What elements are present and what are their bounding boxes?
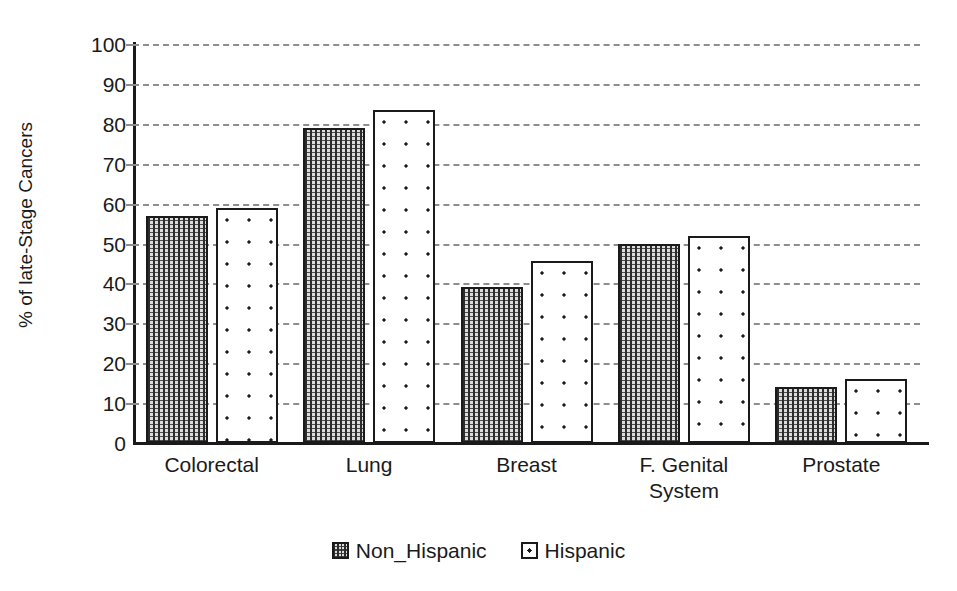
x-tick-label: Breast <box>448 452 605 478</box>
plot-area <box>133 44 920 443</box>
sparse-dots-swatch <box>521 542 538 559</box>
x-axis-category-labels: ColorectalLungBreastF. Genital SystemPro… <box>133 452 920 514</box>
y-tick-label: 30 <box>52 313 126 334</box>
y-tick-label: 60 <box>52 193 126 214</box>
chart-figure: % of late-Stage Cancers 1009080706050403… <box>0 0 957 591</box>
y-axis-title: % of late-Stage Cancers <box>15 122 37 328</box>
bar[interactable] <box>303 128 365 443</box>
y-tick-label: 0 <box>52 433 126 454</box>
bar[interactable] <box>531 261 593 443</box>
y-tick-label: 50 <box>52 233 126 254</box>
legend-item[interactable]: Hispanic <box>521 540 626 561</box>
bar[interactable] <box>775 387 837 443</box>
y-tick-label: 80 <box>52 113 126 134</box>
y-axis-tick-labels: 1009080706050403020100 <box>50 0 126 591</box>
bar[interactable] <box>146 216 208 443</box>
x-tick-label: Lung <box>290 452 447 478</box>
y-tick-label: 90 <box>52 73 126 94</box>
bar[interactable] <box>845 379 907 443</box>
bar[interactable] <box>618 244 680 444</box>
x-tick-label: Prostate <box>763 452 920 478</box>
legend-label: Non_Hispanic <box>356 540 487 561</box>
legend-item[interactable]: Non_Hispanic <box>332 540 487 561</box>
dense-dotted-swatch <box>332 542 349 559</box>
bar[interactable] <box>373 110 435 443</box>
bar[interactable] <box>461 287 523 443</box>
x-tick-label: F. Genital System <box>605 452 762 504</box>
bar[interactable] <box>216 208 278 443</box>
y-tick-label: 40 <box>52 273 126 294</box>
bar[interactable] <box>688 236 750 443</box>
y-tick-label: 70 <box>52 153 126 174</box>
chart-legend: Non_HispanicHispanic <box>0 540 957 561</box>
y-tick-label: 10 <box>52 393 126 414</box>
y-tick-label: 100 <box>52 34 126 55</box>
y-tick-label: 20 <box>52 353 126 374</box>
y-axis-title-container: % of late-Stage Cancers <box>0 0 52 450</box>
bar-series-container <box>133 44 920 443</box>
x-tick-label: Colorectal <box>133 452 290 478</box>
legend-label: Hispanic <box>545 540 626 561</box>
